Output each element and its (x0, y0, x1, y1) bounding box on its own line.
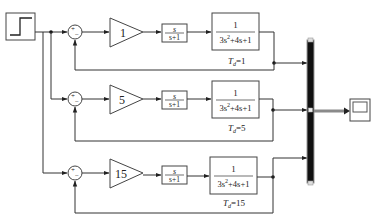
plant-block-1[interactable]: 1 3s2+4s+1 (212, 13, 259, 50)
svg-text:s+1: s+1 (169, 175, 180, 184)
sum-minus-sign: − (75, 31, 79, 39)
scope-block[interactable] (350, 99, 370, 121)
gain-block-3[interactable]: 15 (110, 159, 143, 188)
gain-block-1[interactable]: 1 (110, 18, 143, 47)
svg-text:s+1: s+1 (169, 100, 180, 109)
svg-text:1: 1 (233, 88, 238, 98)
mux-block[interactable] (307, 38, 314, 185)
loop-row-3: + − 15 s s+1 1 3s2+4s+1 Td=15 (68, 157, 307, 213)
step-block[interactable] (6, 13, 35, 40)
loop-row-1: + − 1 s s+1 1 3s2+4s+1 Td=1 (68, 13, 307, 70)
svg-text:−: − (75, 172, 79, 180)
svg-text:1: 1 (233, 20, 238, 30)
loop-row-2: + − 5 s s+1 1 3s2+4s+1 Td=5 (68, 81, 307, 141)
derivative-filter-block-2[interactable]: s s+1 (162, 91, 187, 109)
sum-block-3[interactable]: + − (68, 166, 82, 180)
time-delay-label-1: Td=1 (228, 56, 246, 67)
scope-icon (353, 102, 367, 112)
svg-text:15: 15 (115, 167, 127, 181)
sum-block-2[interactable]: + − (68, 92, 82, 106)
svg-text:−: − (75, 98, 79, 106)
svg-text:s+1: s+1 (169, 33, 180, 42)
block-diagram: + − 1 s s+1 1 3s2+4s+1 Td=1 (0, 0, 377, 220)
source-signal-lines (35, 30, 67, 173)
time-delay-label-3: Td=15 (223, 198, 246, 209)
svg-text:3s2+4s+1: 3s2+4s+1 (220, 102, 252, 113)
derivative-filter-block-1[interactable]: s s+1 (162, 24, 187, 42)
plant-block-2[interactable]: 1 3s2+4s+1 (212, 81, 259, 118)
svg-text:5: 5 (119, 93, 125, 107)
time-delay-label-2: Td=5 (228, 123, 246, 134)
svg-text:1: 1 (231, 164, 236, 174)
plant-block-3[interactable]: 1 3s2+4s+1 (210, 157, 257, 194)
svg-text:3s2+4s+1: 3s2+4s+1 (218, 178, 250, 189)
svg-text:3s2+4s+1: 3s2+4s+1 (220, 34, 252, 45)
sum-block-1[interactable]: + − (68, 25, 82, 39)
gain-value: 1 (120, 26, 126, 40)
gain-block-2[interactable]: 5 (110, 85, 143, 114)
derivative-filter-block-3[interactable]: s s+1 (162, 166, 187, 184)
